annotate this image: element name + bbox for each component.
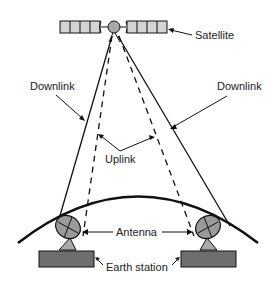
downlink-right-pointer: [173, 96, 227, 127]
earth-station-left: [39, 251, 94, 267]
antenna-label: Antenna: [116, 226, 158, 238]
arrowhead-icon: [168, 28, 174, 33]
solar-panel-left: [60, 21, 101, 33]
uplink-pointer-right: [120, 138, 151, 151]
arrowhead-icon: [95, 257, 100, 261]
antenna-left: [39, 211, 94, 267]
uplink-pointer-left: [101, 136, 120, 151]
arrowhead-icon: [175, 257, 180, 261]
antenna-right: [181, 211, 236, 267]
downlink-line-left: [57, 36, 112, 226]
satellite-body: [108, 21, 120, 33]
earth-station-label: Earth station: [106, 261, 168, 273]
downlink-right-label: Downlink: [217, 80, 262, 92]
uplink-line-right: [119, 36, 194, 236]
antenna-mount: [59, 238, 76, 250]
satellite-pointer-arrow: [171, 30, 192, 35]
arrowhead-icon: [187, 229, 193, 235]
satellite: [60, 21, 167, 42]
satellite-link-diagram: Satellite Downlink Downlink Uplink Anten…: [0, 0, 277, 289]
solar-panel-right: [126, 21, 167, 33]
antenna-mount: [200, 238, 217, 250]
satellite-label: Satellite: [195, 29, 234, 41]
earth-station-right: [181, 251, 236, 267]
downlink-left-pointer: [56, 95, 83, 119]
arrowhead-icon: [149, 135, 155, 140]
uplink-label: Uplink: [105, 153, 136, 165]
downlink-left-label: Downlink: [30, 80, 75, 92]
